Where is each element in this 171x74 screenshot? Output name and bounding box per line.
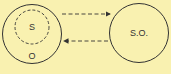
left-node: S O <box>3 5 62 64</box>
diagram: S O S.O. <box>0 0 171 74</box>
right-node: S.O. <box>110 4 169 63</box>
diagram-canvas: S O S.O. <box>0 0 171 74</box>
outer-label: O <box>28 51 35 61</box>
inner-label: S <box>29 22 35 32</box>
right-label: S.O. <box>130 28 148 38</box>
